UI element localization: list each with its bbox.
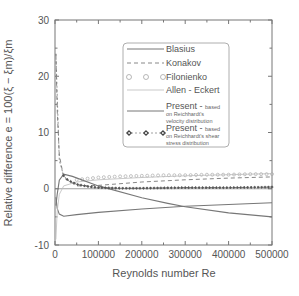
y-tick-label: 20 (38, 71, 50, 82)
x-axis-title: Reynolds number Re (112, 267, 215, 279)
x-tick-label: 500000 (255, 249, 289, 260)
legend-item-label: Konakov (166, 58, 202, 68)
y-tick-label: 0 (43, 183, 49, 194)
x-tick-label: 0 (52, 249, 58, 260)
y-tick-label: -10 (35, 240, 50, 251)
x-tick-label: 300000 (169, 249, 203, 260)
legend: BlasiusKonakovFilonienkoAllen - EckertPr… (123, 43, 229, 147)
legend-item-sublabel: stress distribution (166, 140, 209, 146)
chart: 0100000200000300000400000500000-10010203… (0, 0, 299, 296)
legend-item-label: Allen - Eckert (166, 85, 220, 95)
legend-item-sublabel: on Reichhardt's shear (166, 133, 219, 139)
legend-item-label: Blasius (166, 44, 196, 54)
legend-item-sublabel: on Reichhardt's (166, 111, 204, 117)
legend-item-label: Filonienko (166, 72, 207, 82)
y-tick-label: 30 (38, 15, 50, 26)
x-tick-label: 200000 (125, 249, 159, 260)
x-tick-label: 400000 (212, 249, 246, 260)
x-tick-label: 100000 (82, 249, 116, 260)
y-axis-title: Relative difference e = 100(ξ − ξm)/ξm (2, 40, 14, 227)
series-3 (56, 174, 272, 240)
y-tick-label: 10 (38, 127, 50, 138)
